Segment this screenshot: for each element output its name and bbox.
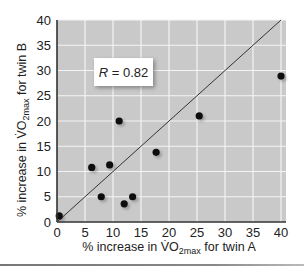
data-point <box>98 193 105 200</box>
data-point <box>116 117 123 124</box>
r-annotation-text: R = 0.82 <box>99 65 149 80</box>
data-point <box>153 149 160 156</box>
x-tick-label: 15 <box>134 225 148 240</box>
scatter-chart: 0510152025303540 0510152025303540 R = 0.… <box>0 0 304 271</box>
x-axis-label: % increase in V̇O2max for twin A <box>82 240 256 256</box>
y-axis-label: % increase in V̇O2max for twin B <box>15 43 31 217</box>
y-tick-label: 5 <box>44 189 51 204</box>
x-tick-label: 20 <box>162 225 176 240</box>
y-tick-label: 30 <box>37 63 51 78</box>
y-tick-label: 0 <box>44 215 51 230</box>
y-tick-label: 15 <box>37 139 51 154</box>
y-tick-labels: 0510152025303540 <box>37 13 51 230</box>
x-tick-label: 10 <box>106 225 120 240</box>
x-tick-label: 0 <box>53 225 60 240</box>
data-point <box>106 161 113 168</box>
y-tick-label: 40 <box>37 13 51 28</box>
data-point <box>129 193 136 200</box>
y-tick-label: 10 <box>37 164 51 179</box>
data-point <box>277 72 284 79</box>
x-tick-label: 25 <box>190 225 204 240</box>
x-tick-label: 35 <box>246 225 260 240</box>
y-tick-label: 35 <box>37 38 51 53</box>
bottom-divider <box>0 264 304 266</box>
x-tick-labels: 0510152025303540 <box>53 225 288 240</box>
data-point <box>121 200 128 207</box>
data-point <box>88 164 95 171</box>
y-tick-label: 20 <box>37 114 51 129</box>
data-point <box>196 112 203 119</box>
x-tick-label: 5 <box>81 225 88 240</box>
y-tick-label: 25 <box>37 88 51 103</box>
x-tick-label: 30 <box>218 225 232 240</box>
x-tick-label: 40 <box>274 225 288 240</box>
